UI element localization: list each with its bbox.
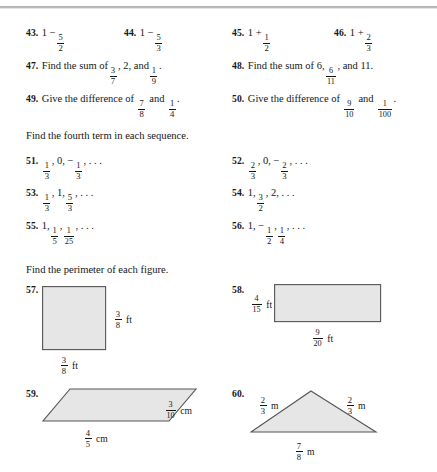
exercise-50: 50.Give the difference of 910 and 1100. xyxy=(232,94,396,119)
numerator: 6 xyxy=(328,67,334,75)
unit-label: cm xyxy=(96,433,108,444)
numerator: 1 xyxy=(382,100,388,108)
fraction: 415 xyxy=(252,295,262,314)
exercise-prefix: 1 − xyxy=(140,27,154,38)
exercise-mid: and xyxy=(358,93,373,104)
scan-rule-top-shadow xyxy=(0,8,437,9)
exercise-prefix: 1 + xyxy=(248,27,262,38)
numerator: 3 xyxy=(168,401,174,409)
fraction: 910 xyxy=(344,100,354,119)
figure-57-number: 57. xyxy=(26,285,42,296)
denominator: 3 xyxy=(155,44,161,53)
exercise-47: 47.Find the sum of37, 2, and19. xyxy=(26,61,162,86)
exercise-55: 55.1,15,125, . . . xyxy=(26,221,94,246)
sequence-terms: , 0, − xyxy=(258,155,280,166)
figure-59-number: 59. xyxy=(26,389,42,400)
sequence-terms: 1, xyxy=(42,220,50,231)
fraction: 23 xyxy=(365,33,372,53)
exercise-end: . xyxy=(177,93,180,104)
sequence-terms: , 1, xyxy=(52,187,65,198)
numerator: 5 xyxy=(57,33,63,42)
exercise-lead: Give the difference of xyxy=(248,93,340,104)
fraction: 53 xyxy=(155,33,162,53)
denominator: 3 xyxy=(365,44,371,53)
sequence-terms-2: , xyxy=(60,220,63,231)
fraction: 38 xyxy=(115,310,122,330)
fraction: 53 xyxy=(66,193,73,213)
fraction: 12 xyxy=(263,33,270,53)
fraction: 52 xyxy=(57,33,64,53)
denominator: 8 xyxy=(296,453,302,462)
exercise-51: 51.13, 0, −13, . . . xyxy=(26,156,102,181)
exercise-54: 54.1,32, 2, . . . xyxy=(232,188,295,213)
fraction: 15 xyxy=(51,226,58,246)
figure-57-square xyxy=(42,286,108,352)
figure-57-bottom-label: 38ft xyxy=(59,356,78,376)
denominator: 10 xyxy=(166,412,176,420)
sequence-terms: , 0, − xyxy=(52,155,74,166)
denominator: 10 xyxy=(344,111,354,119)
numerator: 9 xyxy=(346,100,352,108)
figure-59-bottom-label: 45cm xyxy=(83,429,108,449)
exercise-number: 59. xyxy=(26,388,38,399)
fraction: 14 xyxy=(278,226,285,246)
fraction: 13 xyxy=(43,193,50,213)
exercise-number: 55. xyxy=(26,220,38,231)
exercise-53: 53.13, 1,53, . . . xyxy=(26,188,93,213)
sequence-ellipsis: , . . . xyxy=(75,187,93,198)
numerator: 2 xyxy=(365,33,371,42)
exercise-number: 52. xyxy=(232,155,244,166)
exercise-number: 44. xyxy=(124,27,136,38)
numerator: 5 xyxy=(155,33,161,42)
exercise-number: 53. xyxy=(26,187,38,198)
sequence-ellipsis: , . . . xyxy=(75,220,93,231)
sequence-ellipsis: , . . . xyxy=(287,220,305,231)
figure-58-rectangle xyxy=(274,284,382,323)
fraction: 23 xyxy=(249,161,256,181)
exercise-number: 58. xyxy=(232,284,244,295)
denominator: 4 xyxy=(169,110,175,119)
exercise-number: 60. xyxy=(232,388,244,399)
figure-57-right-label: 38ft xyxy=(113,310,132,330)
numerator: 3 xyxy=(115,310,121,319)
fraction: 14 xyxy=(169,99,176,119)
unit-label: ft xyxy=(72,360,78,371)
exercise-49: 49.Give the difference of 78 and 14. xyxy=(26,94,180,119)
unit-label: m xyxy=(307,446,314,457)
fraction: 32 xyxy=(257,193,264,213)
unit-label: m xyxy=(358,400,365,411)
exercise-prefix: 1 − xyxy=(42,27,56,38)
exercise-44: 44.1 −53 xyxy=(124,28,164,53)
fraction: 1100 xyxy=(378,100,392,119)
sequence-ellipsis: , . . . xyxy=(289,155,307,166)
fraction: 45 xyxy=(85,429,92,449)
figure-58-bottom-label: 920ft xyxy=(311,329,333,348)
numerator: 9 xyxy=(315,329,321,337)
denominator: 7 xyxy=(110,77,116,86)
exercise-prefix: 1 + xyxy=(350,27,364,38)
denominator: 100 xyxy=(378,111,392,119)
fraction: 23 xyxy=(281,161,288,181)
fraction: 310 xyxy=(166,401,176,420)
exercise-mid: , 2, and xyxy=(118,60,149,71)
exercise-number: 50. xyxy=(232,93,244,104)
denominator: 8 xyxy=(61,367,67,376)
numerator: 2 xyxy=(347,396,353,405)
numerator: 1 xyxy=(169,99,175,108)
numerator: 7 xyxy=(138,99,144,108)
sequence-terms: 1, xyxy=(248,187,256,198)
numerator: 1 xyxy=(151,66,157,75)
exercise-lead: Find the sum of 6, xyxy=(248,60,325,71)
section-heading-sequences: Find the fourth term in each sequence. xyxy=(26,130,189,141)
exercise-56: 56.1, −12,14, . . . xyxy=(232,221,305,246)
fraction: 13 xyxy=(43,161,50,181)
exercise-46: 46.1 +23 xyxy=(334,28,374,53)
exercise-43: 43.1 −52 xyxy=(26,28,66,53)
unit-label: cm xyxy=(180,405,192,416)
figure-58-number: 58. xyxy=(232,285,248,296)
exercise-number: 51. xyxy=(26,155,38,166)
sequence-ellipsis: , . . . xyxy=(83,155,101,166)
fraction: 611 xyxy=(326,67,336,86)
denominator: 2 xyxy=(57,44,63,53)
worksheet-page: 43.1 −52 44.1 −53 45.1 +12 46.1 +23 47.F… xyxy=(0,0,437,472)
